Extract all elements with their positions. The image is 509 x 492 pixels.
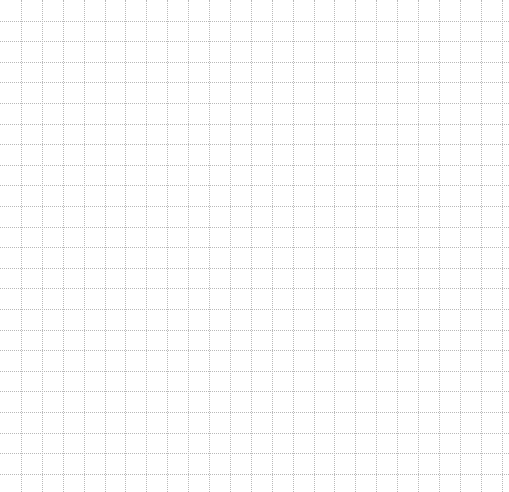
grid-vertical-line [502,0,503,492]
grid-vertical-line [63,0,64,492]
grid-vertical-line [418,0,419,492]
grid-vertical-line [334,0,335,492]
grid-horizontal-line [0,206,509,207]
grid-paper [0,0,509,492]
grid-vertical-line [188,0,189,492]
grid-vertical-line [272,0,273,492]
grid-vertical-line [355,0,356,492]
grid-vertical-line [439,0,440,492]
grid-horizontal-line [0,21,509,22]
grid-horizontal-line [0,185,509,186]
grid-horizontal-line [0,412,509,413]
grid-horizontal-line [0,144,509,145]
grid-vertical-line [209,0,210,492]
grid-horizontal-line [0,350,509,351]
grid-horizontal-line [0,474,509,475]
grid-vertical-line [314,0,315,492]
grid-vertical-line [251,0,252,492]
grid-vertical-line [293,0,294,492]
grid-horizontal-line [0,371,509,372]
grid-horizontal-line [0,41,509,42]
grid-horizontal-line [0,227,509,228]
grid-horizontal-line [0,453,509,454]
grid-vertical-line [146,0,147,492]
grid-vertical-line [42,0,43,492]
grid-horizontal-line [0,391,509,392]
grid-horizontal-line [0,165,509,166]
grid-horizontal-line [0,124,509,125]
grid-vertical-line [230,0,231,492]
grid-horizontal-line [0,82,509,83]
grid-vertical-line [397,0,398,492]
grid-horizontal-line [0,309,509,310]
grid-vertical-line [84,0,85,492]
grid-vertical-line [376,0,377,492]
grid-horizontal-line [0,103,509,104]
grid-vertical-line [167,0,168,492]
grid-horizontal-line [0,330,509,331]
grid-horizontal-line [0,62,509,63]
grid-vertical-line [460,0,461,492]
grid-horizontal-line [0,288,509,289]
grid-vertical-line [125,0,126,492]
grid-horizontal-line [0,247,509,248]
grid-horizontal-line [0,433,509,434]
grid-vertical-line [481,0,482,492]
grid-vertical-line [21,0,22,492]
grid-horizontal-line [0,268,509,269]
grid-vertical-line [105,0,106,492]
